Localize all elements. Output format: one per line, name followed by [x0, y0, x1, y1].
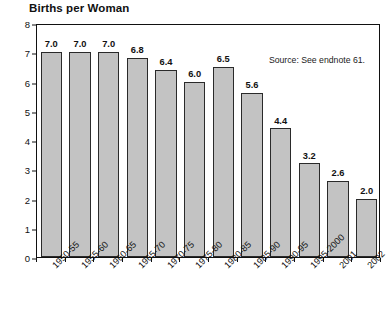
bar-value-label: 7.0: [74, 40, 87, 49]
chart-container: Births per Woman Source: See endnote 61.…: [0, 0, 391, 324]
y-axis-tick-label: 2: [25, 196, 37, 206]
bar-group: 6.5: [213, 25, 234, 257]
bar-group: 4.4: [270, 25, 291, 257]
bar-group: 3.2: [299, 25, 320, 257]
bar-group: 6.4: [155, 25, 176, 257]
bar-value-label: 6.4: [160, 58, 173, 67]
bar-group: 6.8: [127, 25, 148, 257]
bar-group: 7.0: [98, 25, 119, 257]
bar-value-label: 7.0: [102, 40, 115, 49]
bar[interactable]: [241, 93, 262, 257]
bar[interactable]: [155, 70, 176, 257]
bar[interactable]: [41, 52, 62, 257]
bar-value-label: 7.0: [45, 40, 58, 49]
bar-value-label: 3.2: [303, 152, 316, 161]
bar-value-label: 2.0: [360, 187, 373, 196]
plot-area: Source: See endnote 61. 012345678 7.07.0…: [36, 24, 380, 258]
bar[interactable]: [127, 58, 148, 257]
bar-group: 2.6: [327, 25, 348, 257]
bar-group: 6.0: [184, 25, 205, 257]
bar-group: 5.6: [241, 25, 262, 257]
bars-layer: 7.07.07.06.86.46.06.55.64.43.22.62.0: [37, 25, 379, 257]
y-axis-tick-label: 0: [25, 254, 37, 264]
bar[interactable]: [356, 199, 377, 258]
bar-value-label: 6.0: [188, 70, 201, 79]
bar-value-label: 6.8: [131, 46, 144, 55]
bar-value-label: 4.4: [274, 117, 287, 126]
bar[interactable]: [98, 52, 119, 257]
y-axis-tick-label: 5: [25, 108, 37, 118]
bar[interactable]: [270, 128, 291, 257]
bar[interactable]: [184, 82, 205, 258]
chart-title: Births per Woman: [29, 2, 129, 14]
bar-group: 2.0: [356, 25, 377, 257]
y-axis-tick-label: 4: [25, 137, 37, 147]
bar-group: 7.0: [41, 25, 62, 257]
y-axis-tick-label: 3: [25, 167, 37, 177]
y-axis-tick-label: 6: [25, 79, 37, 89]
bar[interactable]: [213, 67, 234, 257]
y-axis-tick-label: 7: [25, 50, 37, 60]
bar-group: 7.0: [69, 25, 90, 257]
y-axis-tick-label: 1: [25, 225, 37, 235]
bar[interactable]: [69, 52, 90, 257]
bar-value-label: 6.5: [217, 55, 230, 64]
bar-value-label: 5.6: [246, 81, 259, 90]
y-axis-tick-label: 8: [25, 20, 37, 30]
bar-value-label: 2.6: [332, 169, 345, 178]
